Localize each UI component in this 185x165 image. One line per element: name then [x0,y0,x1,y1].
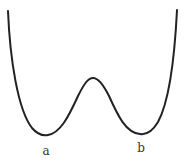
label-b: b [137,141,145,155]
double-well-diagram: a b [0,0,185,165]
double-well-curve [8,10,177,135]
label-a: a [42,144,49,158]
